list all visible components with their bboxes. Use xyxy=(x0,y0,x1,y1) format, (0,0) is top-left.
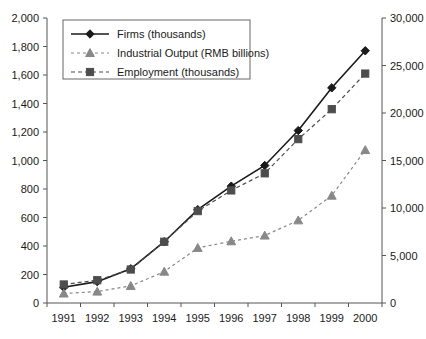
left-axis-tick-label: 800 xyxy=(21,183,39,195)
x-axis-ticks: 1991199219931994199519961997199819992000 xyxy=(47,303,382,324)
left-axis-tick-label: 1,000 xyxy=(11,155,39,167)
right-axis-tick-label: 10,000 xyxy=(390,202,424,214)
left-axis-tick-label: 0 xyxy=(33,297,39,309)
right-axis-tick-label: 0 xyxy=(390,297,396,309)
x-axis-tick-label: 1998 xyxy=(286,312,310,324)
left-axis-tick-label: 2,000 xyxy=(11,12,39,24)
x-axis-tick-label: 1996 xyxy=(219,312,243,324)
right-axis-tick-label: 25,000 xyxy=(390,60,424,72)
data-point-marker xyxy=(261,170,268,177)
data-point-marker xyxy=(328,106,335,113)
dual-axis-line-chart: 02004006008001,0001,2001,4001,6001,8002,… xyxy=(0,0,426,339)
x-axis-tick-label: 1995 xyxy=(186,312,210,324)
data-point-marker xyxy=(127,266,134,273)
x-axis-tick-label: 1992 xyxy=(85,312,109,324)
data-point-marker xyxy=(295,136,302,143)
chart-legend: Firms (thousands)Industrial Output (RMB … xyxy=(63,20,269,79)
x-axis-tick-label: 1999 xyxy=(320,312,344,324)
legend-marker-icon xyxy=(86,68,93,75)
data-point-marker xyxy=(60,281,67,288)
right-axis-tick-label: 30,000 xyxy=(390,12,424,24)
right-axis-tick-label: 20,000 xyxy=(390,107,424,119)
left-axis-tick-label: 1,200 xyxy=(11,126,39,138)
x-axis-tick-label: 1997 xyxy=(253,312,277,324)
data-point-marker xyxy=(228,187,235,194)
x-axis-tick-label: 1991 xyxy=(52,312,76,324)
data-point-marker xyxy=(194,207,201,214)
data-point-marker xyxy=(161,238,168,245)
left-axis-tick-label: 1,800 xyxy=(11,41,39,53)
x-axis-tick-label: 2000 xyxy=(353,312,377,324)
data-point-marker xyxy=(362,70,369,77)
right-axis-tick-label: 5,000 xyxy=(390,250,418,262)
right-axis-tick-label: 15,000 xyxy=(390,155,424,167)
x-axis-tick-label: 1994 xyxy=(152,312,176,324)
data-point-marker xyxy=(94,277,101,284)
left-axis-tick-label: 1,600 xyxy=(11,69,39,81)
left-axis-tick-label: 1,400 xyxy=(11,98,39,110)
left-axis-tick-label: 600 xyxy=(21,212,39,224)
right-axis-ticks: 05,00010,00015,00020,00025,00030,000 xyxy=(382,12,424,309)
chart-container: 02004006008001,0001,2001,4001,6001,8002,… xyxy=(0,0,426,339)
legend-item-label: Firms (thousands) xyxy=(117,28,206,40)
left-axis-tick-label: 200 xyxy=(21,269,39,281)
legend-item-label: Employment (thousands) xyxy=(117,66,239,78)
left-axis-tick-label: 400 xyxy=(21,240,39,252)
x-axis-tick-label: 1993 xyxy=(119,312,143,324)
legend-item-label: Industrial Output (RMB billions) xyxy=(117,47,269,59)
left-axis-ticks: 02004006008001,0001,2001,4001,6001,8002,… xyxy=(11,12,47,309)
